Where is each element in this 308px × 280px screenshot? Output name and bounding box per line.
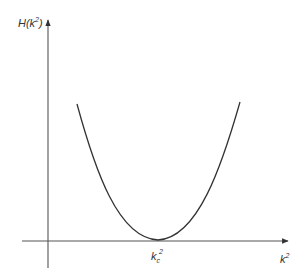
y-axis-label: H(k2) [18, 16, 43, 29]
h-curve [77, 102, 240, 240]
x-axis-label: k2 [280, 252, 290, 265]
critical-k-label: kc2 [151, 248, 163, 264]
diagram-canvas: H(k2) kc2 k2 [0, 0, 308, 280]
